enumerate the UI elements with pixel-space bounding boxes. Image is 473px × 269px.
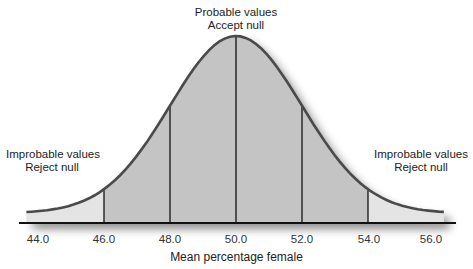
- left-annotation-line2: Reject null: [6, 161, 98, 174]
- right-annotation-line2: Reject null: [374, 161, 468, 174]
- left-annotation: Improbable values Reject null: [6, 148, 98, 174]
- x-tick-label: 56.0: [420, 233, 442, 245]
- chart-canvas: [0, 0, 473, 269]
- center-annotation-line2: Accept null: [186, 19, 286, 32]
- right-annotation-line1: Improbable values: [374, 148, 468, 161]
- sampling-distribution-chart: Probable values Accept null Improbable v…: [0, 0, 473, 269]
- x-tick-label: 50.0: [225, 233, 247, 245]
- right-annotation: Improbable values Reject null: [374, 148, 468, 174]
- distribution-area: [26, 36, 444, 223]
- x-tick-label: 44.0: [27, 233, 49, 245]
- x-tick-label: 48.0: [159, 233, 181, 245]
- center-annotation: Probable values Accept null: [186, 6, 286, 32]
- center-annotation-line1: Probable values: [186, 6, 286, 19]
- x-tick-label: 46.0: [93, 233, 115, 245]
- left-annotation-line1: Improbable values: [6, 148, 98, 161]
- x-tick-label: 54.0: [358, 233, 380, 245]
- x-axis-title: Mean percentage female: [0, 250, 473, 264]
- x-tick-label: 52.0: [291, 233, 313, 245]
